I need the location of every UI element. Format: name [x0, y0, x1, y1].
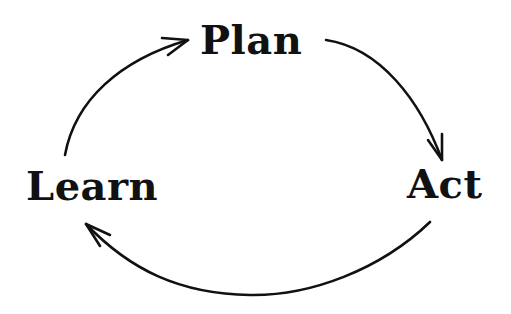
node-plan: Plan [200, 20, 302, 60]
arrow-learn-to-plan [65, 38, 188, 155]
arrow-plan-to-act [326, 40, 442, 160]
arrow-act-to-learn [86, 222, 430, 295]
node-learn: Learn [26, 166, 158, 206]
node-act: Act [407, 164, 482, 204]
cycle-diagram: Plan Act Learn [0, 0, 511, 314]
arrowhead-icon [428, 134, 442, 160]
